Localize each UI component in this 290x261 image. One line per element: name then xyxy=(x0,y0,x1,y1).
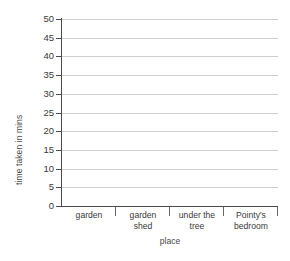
y-axis-tick-label: 35 xyxy=(0,70,54,80)
y-axis-tick-label: 10 xyxy=(0,164,54,174)
x-axis-category-cell: under thetree xyxy=(170,207,224,233)
y-axis-tick-mark xyxy=(56,131,62,132)
gridline xyxy=(62,113,278,114)
y-axis-tick-label-text: 35 xyxy=(0,70,54,80)
x-axis-category-separator xyxy=(277,207,278,216)
y-axis-tick-mark xyxy=(56,75,62,76)
x-axis-category-label: tree xyxy=(170,221,224,232)
x-axis-category-label: garden xyxy=(62,210,116,221)
y-axis-tick-label-text: 5 xyxy=(0,182,54,192)
gridline xyxy=(62,187,278,188)
y-axis-tick-mark xyxy=(56,56,62,57)
x-axis-category-cell: gardenshed xyxy=(116,207,170,233)
x-axis-title: place xyxy=(62,236,278,246)
y-axis-tick-label: 5 xyxy=(0,182,54,192)
x-axis-category-label: bedroom xyxy=(224,221,278,232)
y-axis-tick-label: 45 xyxy=(0,33,54,43)
y-axis-tick-label-text: 30 xyxy=(0,89,54,99)
y-axis-tick-label-text: 45 xyxy=(0,33,54,43)
y-axis-tick-label-text: 15 xyxy=(0,145,54,155)
gridline xyxy=(62,169,278,170)
gridline xyxy=(62,131,278,132)
y-axis-tick-label: 30 xyxy=(0,89,54,99)
x-axis-category-cell: Pointy'sbedroom xyxy=(224,207,278,233)
gridline xyxy=(62,56,278,57)
y-axis-tick-label-text: 25 xyxy=(0,108,54,118)
bar-chart-blank-template: time taken in mins 05101520253035404550 … xyxy=(0,0,290,261)
plot-area xyxy=(62,19,278,206)
x-axis-category-label: Pointy's xyxy=(224,210,278,221)
y-axis-tick-label-text: 10 xyxy=(0,164,54,174)
y-axis-tick-mark xyxy=(56,94,62,95)
x-axis-category-cell: garden xyxy=(62,207,116,233)
y-axis-tick-label: 0 xyxy=(0,201,54,211)
y-axis-tick-label-text: 0 xyxy=(0,201,54,211)
y-axis-tick-label-text: 40 xyxy=(0,51,54,61)
x-axis-category-label: garden xyxy=(116,210,170,221)
y-axis-tick-mark xyxy=(56,169,62,170)
y-axis-tick-mark xyxy=(56,113,62,114)
y-axis-tick-label-text: 20 xyxy=(0,126,54,136)
y-axis-tick-label: 40 xyxy=(0,51,54,61)
gridline xyxy=(62,94,278,95)
y-axis-tick-label: 50 xyxy=(0,14,54,24)
y-axis-tick-mark xyxy=(56,38,62,39)
x-axis-category-band: gardengardenshedunder thetreePointy'sbed… xyxy=(62,207,278,233)
y-axis-tick-label: 25 xyxy=(0,108,54,118)
x-axis-category-label: under the xyxy=(170,210,224,221)
y-axis-tick-mark xyxy=(56,187,62,188)
y-axis-tick-mark xyxy=(56,19,62,20)
y-axis-tick-label: 20 xyxy=(0,126,54,136)
y-axis-tick-label: 15 xyxy=(0,145,54,155)
x-axis-category-label: shed xyxy=(116,221,170,232)
gridline xyxy=(62,38,278,39)
y-axis-tick-label-text: 50 xyxy=(0,14,54,24)
gridline xyxy=(62,19,278,20)
gridline xyxy=(62,75,278,76)
y-axis-tick-mark xyxy=(56,150,62,151)
gridline xyxy=(62,150,278,151)
